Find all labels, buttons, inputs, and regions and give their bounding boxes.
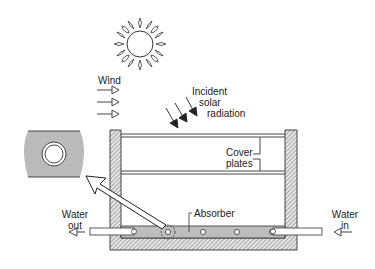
water-out-label-2: out — [60, 220, 90, 231]
collector-diagram — [0, 0, 375, 269]
tube-detail-icon — [24, 131, 84, 177]
sun-icon — [114, 18, 166, 70]
water-in-label-1: Water — [330, 209, 360, 220]
cover-plates — [121, 134, 285, 174]
wind-label: Wind — [98, 75, 121, 86]
water-in-label-2: in — [330, 220, 360, 231]
incident-label-2: solar — [199, 97, 221, 108]
callout-arrow-icon — [86, 176, 166, 229]
inlet-pipe — [271, 228, 323, 235]
incident-label-3: radiation — [207, 108, 245, 119]
cover-label-2: plates — [226, 158, 253, 169]
water-out-label-1: Water — [60, 209, 90, 220]
wind-arrow-icon — [97, 86, 119, 118]
radiation-arrow-icon — [166, 97, 197, 128]
outlet-pipe — [90, 228, 137, 235]
incident-label-1: Incident — [192, 86, 227, 97]
cover-label-1: Cover — [226, 147, 253, 158]
absorber-label: Absorber — [194, 208, 235, 219]
